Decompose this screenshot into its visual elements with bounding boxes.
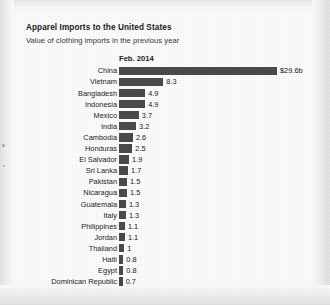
- bar-row-value: 1.3: [129, 211, 139, 220]
- bar-row-label: Mexico: [94, 111, 117, 120]
- bar-chart-row: Vietnam8.3: [0, 77, 330, 88]
- bar-chart-row: Nicaragua1.5: [0, 188, 330, 199]
- bar-row-bar: [119, 277, 123, 285]
- bar-chart-row: Pakistan1.5: [0, 177, 330, 188]
- bar-row-label: Indonesia: [85, 100, 117, 109]
- chart-subtitle: Value of clothing imports in the previou…: [26, 36, 179, 45]
- bar-row-bar: [119, 144, 132, 152]
- bar-row-label: Dominican Republic: [51, 277, 117, 286]
- bar-row-label: Vietnam: [90, 77, 117, 86]
- bar-row-bar: [119, 189, 127, 197]
- bar-chart-row: India3.2: [0, 121, 330, 132]
- bar-chart-row: Haiti0.8: [0, 255, 330, 266]
- bar-row-value: 1.5: [130, 177, 140, 186]
- bar-row-label: Jordan: [94, 233, 117, 242]
- bar-chart-row: Egypt0.8: [0, 266, 330, 277]
- bar-row-value: 0.8: [126, 266, 136, 275]
- bar-row-value: 1.5: [130, 188, 140, 197]
- bar-row-label: Haiti: [102, 255, 117, 264]
- bar-row-bar: [119, 67, 277, 75]
- bar-chart-row: Sri Lanka1.7: [0, 166, 330, 177]
- bar-chart-row: Mexico3.7: [0, 110, 330, 121]
- bar-row-bar: [119, 122, 136, 130]
- column-header-date: Feb. 2014: [119, 54, 154, 63]
- bar-row-value: 1.9: [132, 155, 142, 164]
- bar-row-value: 8.3: [166, 77, 176, 86]
- bar-row-bar: [119, 255, 123, 263]
- bar-row-label: China: [98, 66, 117, 75]
- bar-row-bar: [119, 78, 163, 86]
- bar-row-bar: [119, 89, 145, 97]
- bar-chart-row: Honduras2.5: [0, 144, 330, 155]
- bar-row-value: 2.5: [135, 144, 145, 153]
- bar-chart-row: Indonesia4.9: [0, 99, 330, 110]
- bar-row-bar: [119, 111, 139, 119]
- bar-chart-row: China$29.6b: [0, 66, 330, 77]
- bar-row-value: 2.6: [136, 133, 146, 142]
- bar-row-label: Nicaragua: [83, 188, 117, 197]
- bar-row-label: Honduras: [85, 144, 117, 153]
- bar-row-bar: [119, 200, 126, 208]
- bar-chart-row: Bangladesh4.9: [0, 88, 330, 99]
- bar-row-value: 3.7: [142, 111, 152, 120]
- bar-row-label: Bangladesh: [78, 89, 117, 98]
- bar-row-label: Sri Lanka: [86, 166, 117, 175]
- bar-row-label: Pakistan: [89, 177, 117, 186]
- bar-row-value: 1.1: [128, 222, 138, 231]
- bar-row-value: 4.9: [148, 100, 158, 109]
- bar-chart-row: Thailand1: [0, 244, 330, 255]
- bar-row-label: Italy: [103, 211, 117, 220]
- bar-row-label: Cambodia: [83, 133, 117, 142]
- bar-row-value: 3.2: [139, 122, 149, 131]
- bar-row-bar: [119, 244, 124, 252]
- bar-row-label: Guatemala: [81, 200, 117, 209]
- bar-chart-row: Cambodia2.6: [0, 133, 330, 144]
- bar-row-bar: [119, 222, 125, 230]
- bar-chart-row: Philippines1.1: [0, 221, 330, 232]
- bar-row-value: 4.9: [148, 89, 158, 98]
- bar-row-label: Philippines: [81, 222, 117, 231]
- bar-chart-row: Guatemala1.3: [0, 199, 330, 210]
- bar-row-bar: [119, 133, 133, 141]
- bar-row-value: $29.6b: [280, 66, 303, 75]
- bar-chart-row: Dominican Republic0.7: [0, 277, 330, 288]
- bar-row-label: Egypt: [98, 266, 117, 275]
- bar-row-label: India: [101, 122, 117, 131]
- bar-row-bar: [119, 266, 123, 274]
- bar-row-bar: [119, 100, 145, 108]
- bar-row-bar: [119, 166, 128, 174]
- bar-row-value: 1.7: [131, 166, 141, 175]
- bar-row-value: 0.8: [126, 255, 136, 264]
- chart-figure: Apparel Imports to the United States Val…: [0, 0, 330, 305]
- bar-chart-rows: China$29.6bVietnam8.3Bangladesh4.9Indone…: [0, 66, 330, 288]
- bar-row-bar: [119, 178, 127, 186]
- bar-row-value: 1.1: [128, 233, 138, 242]
- bar-chart-row: Italy1.3: [0, 210, 330, 221]
- bar-row-bar: [119, 233, 125, 241]
- bar-row-value: 0.7: [126, 277, 136, 286]
- bar-row-value: 1: [127, 244, 131, 253]
- bar-row-bar: [119, 155, 129, 163]
- chart-title: Apparel Imports to the United States: [26, 23, 172, 32]
- bar-row-value: 1.3: [129, 200, 139, 209]
- bar-row-label: Thailand: [89, 244, 117, 253]
- scanned-page: Apparel Imports to the United States Val…: [0, 0, 330, 305]
- bar-chart-row: Jordan1.1: [0, 232, 330, 243]
- bar-row-label: El Salvador: [79, 155, 117, 164]
- bar-row-bar: [119, 211, 126, 219]
- bar-chart-row: El Salvador1.9: [0, 155, 330, 166]
